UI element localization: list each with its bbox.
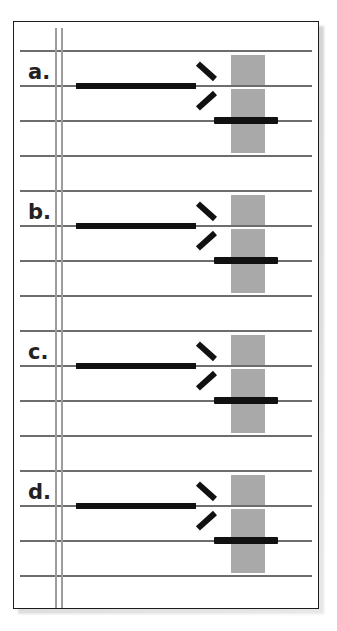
arrow-b (76, 214, 215, 238)
arrow-d-shaft (76, 503, 196, 509)
arrow-a (76, 74, 215, 98)
gray-block-b-top (231, 195, 265, 225)
gray-block-c-bottom (231, 403, 265, 433)
black-bar-c (214, 397, 278, 404)
item-label-a: a. (28, 62, 50, 83)
gray-block-b-middle (231, 229, 265, 259)
arrow-b-shaft (76, 223, 196, 229)
staff-line-b-4 (20, 295, 312, 297)
gray-block-c-top (231, 335, 265, 365)
staff-line-c-1 (20, 330, 312, 332)
arrow-c-shaft (76, 363, 196, 369)
staff-system-a: a. (14, 50, 318, 190)
black-bar-a (214, 117, 278, 124)
arrow-c-head (192, 354, 214, 378)
arrow-c-head-upper (196, 341, 217, 361)
gray-block-b-bottom (231, 263, 265, 293)
arrow-b-head-lower (196, 231, 217, 251)
staff-line-a-1 (20, 50, 312, 52)
black-bar-b (214, 257, 278, 264)
arrow-a-head (192, 74, 214, 98)
staff-system-c: c. (14, 330, 318, 470)
item-label-d: d. (28, 482, 51, 503)
gray-block-d-top (231, 475, 265, 505)
arrow-b-head-upper (196, 201, 217, 221)
arrow-a-head-lower (196, 91, 217, 111)
gray-block-d-middle (231, 509, 265, 539)
barline-d-right (61, 448, 63, 609)
gray-block-d-bottom (231, 543, 265, 573)
arrow-a-shaft (76, 83, 196, 89)
arrow-d-head-upper (196, 481, 217, 501)
staff-line-c-4 (20, 435, 312, 437)
arrow-d-head (192, 494, 214, 518)
barline-d-left (55, 448, 57, 609)
staff-line-d-1 (20, 470, 312, 472)
arrow-c-head-lower (196, 371, 217, 391)
staff-system-d: d. (14, 470, 318, 609)
staff-line-d-4 (20, 575, 312, 577)
gray-block-a-top (231, 55, 265, 85)
item-label-b: b. (28, 202, 51, 223)
black-bar-d (214, 537, 278, 544)
gray-block-c-middle (231, 369, 265, 399)
figure-card: a. b. (13, 21, 319, 609)
arrow-d-head-lower (196, 511, 217, 531)
arrow-a-head-upper (196, 61, 217, 81)
arrow-c (76, 354, 215, 378)
staff-system-b: b. (14, 190, 318, 330)
item-label-c: c. (28, 342, 48, 363)
staff-line-a-4 (20, 155, 312, 157)
staff-line-b-1 (20, 190, 312, 192)
arrow-d (76, 494, 215, 518)
gray-block-a-bottom (231, 123, 265, 153)
gray-block-a-middle (231, 89, 265, 119)
arrow-b-head (192, 214, 214, 238)
